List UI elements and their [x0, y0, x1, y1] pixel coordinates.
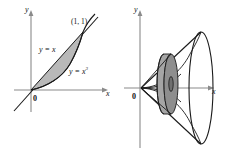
region-plot: y x 0 (1, 1) y = x y = x 3: [14, 5, 110, 112]
math-figure: y x 0 (1, 1) y = x y = x 3: [0, 0, 227, 157]
right-y-axis: [138, 10, 143, 148]
right-origin-label: 0: [132, 92, 136, 101]
right-x-axis-label: x: [211, 87, 216, 96]
label-y-equals-x-cubed: y = x 3: [68, 66, 89, 76]
left-x-axis-label: x: [105, 89, 110, 98]
label-y-equals-x-cubed-exponent: 3: [86, 66, 89, 71]
washer-hole: [169, 77, 173, 92]
left-y-axis-label: y: [24, 5, 29, 14]
right-y-axis-arrowhead: [138, 10, 143, 16]
label-y-equals-x-cubed-base: y = x: [68, 67, 86, 76]
left-origin-label: 0: [33, 94, 37, 103]
point-1-1-label: (1, 1): [71, 17, 88, 26]
label-y-equals-x: y = x: [38, 45, 56, 54]
left-y-axis-arrowhead: [29, 10, 34, 16]
left-x-axis: [14, 88, 108, 93]
right-y-axis-label: y: [133, 5, 138, 14]
solid-of-revolution-plot: y x 0: [124, 5, 216, 148]
shaded-region: [31, 32, 83, 90]
